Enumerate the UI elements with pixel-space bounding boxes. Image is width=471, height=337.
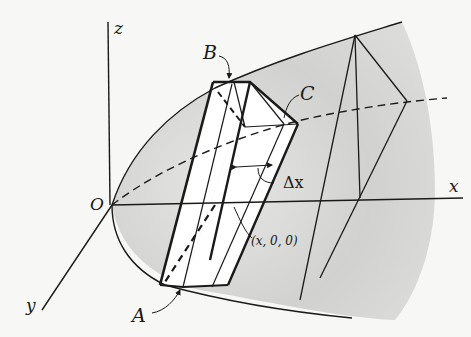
x-axis-label: x xyxy=(449,176,459,196)
point-b-label: B xyxy=(202,41,217,63)
y-axis-label: y xyxy=(25,295,36,315)
origin-label: O xyxy=(90,194,104,214)
point-c-label: C xyxy=(300,82,315,104)
paraboloid-slab-diagram: z x y O B C A Δx (x, 0, 0) xyxy=(0,0,471,337)
delta-x-label: Δx xyxy=(283,173,304,192)
point-coordinate-label: (x, 0, 0) xyxy=(251,234,298,248)
a-leader xyxy=(152,290,180,313)
b-leader xyxy=(219,56,229,78)
z-axis-label: z xyxy=(113,18,124,38)
z-axis xyxy=(108,22,110,205)
y-axis xyxy=(42,205,112,310)
point-a-label: A xyxy=(130,304,146,326)
diagram-canvas: z x y O B C A Δx (x, 0, 0) xyxy=(0,0,471,337)
